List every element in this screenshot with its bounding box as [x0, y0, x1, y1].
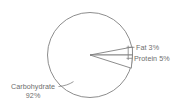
- slice-label-carbohydrate-name: Carbohydrate: [11, 82, 55, 91]
- slice-label-fat: Fat 3%: [136, 43, 159, 52]
- pie-chart: Fat 3% Protein 5% Carbohydrate 92%: [0, 0, 182, 110]
- slice-label-protein: Protein 5%: [134, 54, 170, 63]
- slice-label-carbohydrate: Carbohydrate 92%: [11, 82, 55, 100]
- slice-label-carbohydrate-value: 92%: [11, 91, 55, 100]
